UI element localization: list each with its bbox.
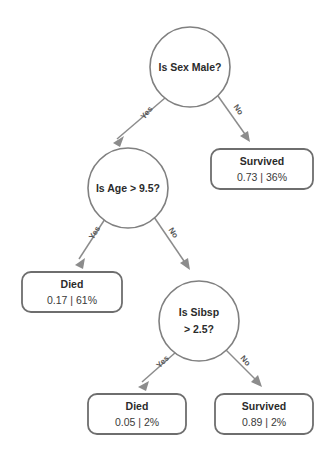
decision-node-label-root: Is Sex Male?	[158, 61, 221, 73]
decision-tree-diagram: Yes No Yes No Yes No Is Sex Male? Is A	[0, 0, 331, 458]
edge-label-root-no: No	[232, 103, 246, 117]
leaf-node-title-survived-36: Survived	[240, 155, 284, 167]
leaf-node-survived-36[interactable]: Survived 0.73 | 36%	[211, 149, 313, 189]
leaf-node-title-died-61: Died	[61, 278, 84, 290]
leaf-node-stats-survived-2: 0.89 | 2%	[242, 416, 286, 428]
decision-node-is-sibsp-gt-2-5[interactable]: Is Sibsp > 2.5?	[159, 281, 239, 361]
edge-sibsp-yes: Yes	[138, 352, 176, 391]
decision-node-is-sex-male[interactable]: Is Sex Male?	[150, 27, 230, 107]
edge-line-root-no	[218, 96, 247, 137]
decision-node-label-age: Is Age > 9.5?	[96, 182, 160, 194]
decision-node-label-sibsp-line1: Is Sibsp	[179, 306, 219, 318]
leaf-node-stats-died-61: 0.17 | 61%	[47, 294, 97, 306]
decision-node-label-sibsp-line2: > 2.5?	[184, 323, 214, 335]
decision-node-circle-sibsp	[159, 281, 239, 361]
edge-root-yes: Yes	[113, 98, 165, 147]
leaf-node-stats-died-2: 0.05 | 2%	[115, 416, 159, 428]
edge-age-no: No	[154, 217, 190, 270]
leaf-node-title-died-2: Died	[126, 400, 149, 412]
arrowhead-sibsp-yes	[138, 381, 149, 391]
leaf-node-survived-2[interactable]: Survived 0.89 | 2%	[215, 394, 313, 434]
edge-root-no: No	[218, 96, 250, 142]
edge-sibsp-no: No	[226, 350, 262, 387]
edge-age-yes: Yes	[75, 219, 105, 269]
arrowhead-root-no	[240, 131, 250, 142]
leaf-node-title-survived-2: Survived	[242, 400, 286, 412]
edge-label-sibsp-no: No	[238, 354, 252, 368]
edge-line-sibsp-no	[226, 350, 258, 382]
decision-node-is-age-gt-9-5[interactable]: Is Age > 9.5?	[88, 148, 168, 228]
edge-label-root-yes: Yes	[139, 104, 155, 121]
edge-label-sibsp-yes: Yes	[155, 353, 172, 370]
leaf-node-died-2[interactable]: Died 0.05 | 2%	[88, 394, 186, 434]
edge-line-root-yes	[117, 98, 165, 139]
arrowhead-age-yes	[75, 258, 85, 269]
leaf-node-died-61[interactable]: Died 0.17 | 61%	[22, 272, 122, 312]
leaf-node-stats-survived-36: 0.73 | 36%	[237, 171, 287, 183]
edge-line-age-no	[154, 217, 186, 264]
arrowhead-age-no	[180, 258, 190, 270]
